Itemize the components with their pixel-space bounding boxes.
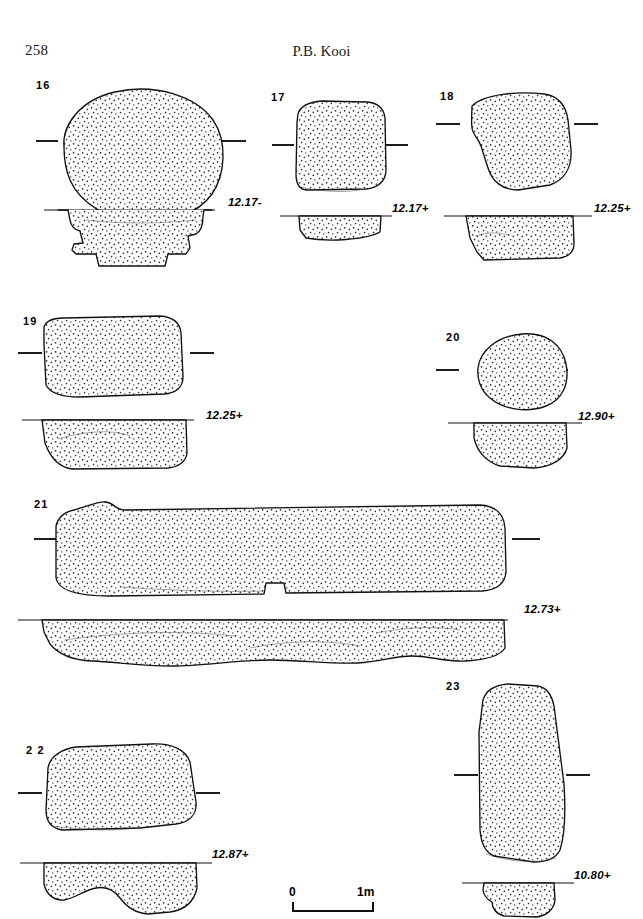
figure-17-plan-outline: [296, 101, 386, 190]
figure-23-drawing: [426, 672, 643, 919]
figure-22-elevation: 12.87+: [212, 848, 249, 860]
figure-17-section-outline: [299, 216, 381, 240]
figure-20-elevation: 12.90+: [578, 410, 615, 422]
figure-19-section-outline: [42, 420, 187, 469]
figure-21-section-outline: [42, 620, 505, 666]
figure-22-drawing: [0, 730, 290, 919]
figure-18-drawing: [426, 80, 643, 275]
figure-19: 19 12.25+: [0, 305, 290, 485]
figure-23-section-outline: [483, 883, 555, 917]
figure-22-section-outline: [44, 863, 197, 914]
figure-17-elevation: 12.17+: [392, 202, 429, 214]
page-canvas: 258 P.B. Kooi 16: [0, 0, 643, 919]
figure-18-elevation: 12.25+: [594, 202, 631, 214]
figure-17-drawing: [262, 82, 427, 267]
figure-23-elevation: 10.80+: [574, 869, 611, 881]
figure-21-plan-outline: [56, 502, 506, 596]
figure-20: 20 12.90+: [426, 320, 643, 490]
figure-20-plan-outline: [478, 334, 567, 410]
figure-22: 2 2 12.87+: [0, 730, 290, 919]
figure-23: 23 10.80+: [426, 672, 643, 919]
figure-21-elevation: 12.73+: [524, 603, 561, 615]
figure-16: 16 12.17-: [0, 70, 260, 285]
figure-19-plan-outline: [44, 316, 183, 397]
figure-21: 21 12.73+: [0, 490, 643, 680]
figure-17: 17 12.17+: [262, 82, 427, 267]
figure-18-plan-outline: [472, 93, 572, 190]
figure-16-plan-outline: [64, 89, 223, 222]
figure-20-section-outline: [474, 423, 567, 468]
scale-bar-graphic: [285, 888, 395, 914]
figure-21-drawing: [0, 490, 643, 680]
figure-19-drawing: [0, 305, 290, 485]
running-head: P.B. Kooi: [0, 43, 643, 60]
figure-16-drawing: [0, 70, 260, 285]
figure-18: 18 12.25+: [426, 80, 643, 275]
figure-23-plan-outline: [479, 684, 565, 862]
figure-18-section-outline: [466, 216, 574, 260]
figure-22-plan-outline: [46, 744, 196, 830]
figure-16-elevation: 12.17-: [228, 196, 262, 208]
figure-20-drawing: [426, 320, 643, 490]
scale-bar: 0 1m: [285, 888, 395, 914]
figure-16-section-outline: [58, 210, 212, 266]
figure-19-elevation: 12.25+: [206, 409, 243, 421]
